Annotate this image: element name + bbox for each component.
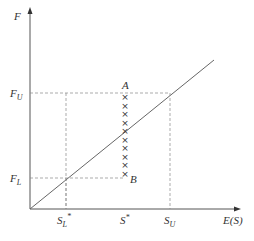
- point-b-label: B: [130, 173, 137, 185]
- y-axis-label: F: [13, 10, 21, 22]
- y-axis-arrow-icon: [28, 7, 33, 14]
- cross-marker: ×: [121, 169, 129, 179]
- x-axis-label: E(S): [222, 214, 243, 227]
- diagram-svg: ×××××××××× F FU FL A B SL* S* SU E(S): [0, 0, 254, 241]
- su-label: SU: [164, 214, 177, 229]
- point-a-label: A: [121, 79, 129, 91]
- cross-column: ××××××××××: [121, 92, 129, 179]
- s-star-label: S*: [120, 213, 130, 226]
- fu-label: FU: [9, 87, 24, 102]
- x-axis-arrow-icon: [234, 207, 241, 212]
- fl-label: FL: [9, 172, 22, 187]
- sl-star-label: SL*: [57, 212, 71, 229]
- diagram-canvas: ×××××××××× F FU FL A B SL* S* SU E(S): [0, 0, 254, 241]
